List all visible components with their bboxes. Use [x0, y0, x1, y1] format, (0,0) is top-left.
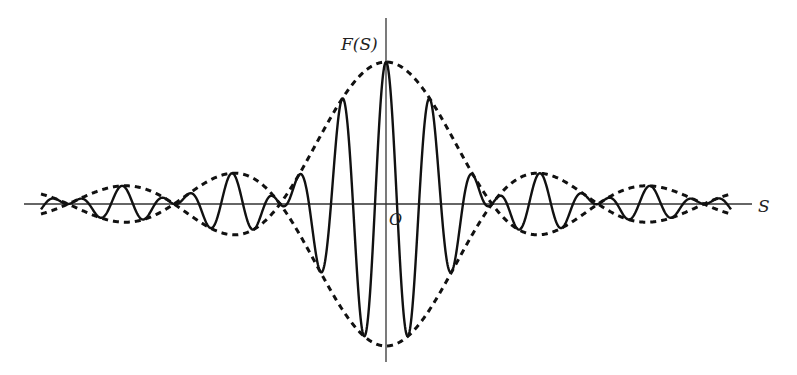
- y-axis-label: F(S): [340, 34, 378, 54]
- origin-label: O: [389, 210, 402, 229]
- interferogram-diagram: F(S) S O: [0, 0, 797, 375]
- x-axis-label: S: [758, 196, 770, 216]
